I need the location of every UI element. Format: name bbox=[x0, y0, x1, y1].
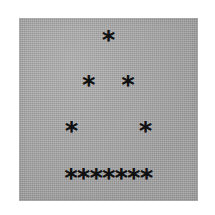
scanned-gray-paper-panel: * * * * * ******* bbox=[19, 18, 198, 201]
screenshot-canvas: * * * * * ******* bbox=[0, 0, 215, 215]
